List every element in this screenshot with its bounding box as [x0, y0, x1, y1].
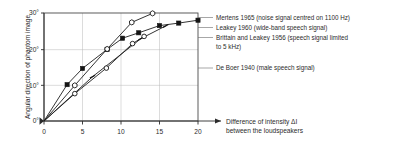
data-point-marker	[150, 11, 155, 16]
series-3	[44, 34, 146, 121]
chart-figure: 30° 20° 10° 0° 0 5 10 15 20 Angular dire…	[0, 0, 393, 154]
data-point-marker	[177, 21, 181, 25]
legend-item-brittain-leakey-cont: to 5 kHz)	[216, 43, 241, 51]
x-tick-label: 0	[42, 128, 46, 135]
x-axis	[44, 119, 221, 124]
data-point-marker	[137, 31, 141, 35]
data-point-marker	[142, 34, 147, 39]
grid-lines	[44, 13, 198, 121]
data-point-marker	[73, 91, 78, 96]
data-point-marker	[130, 20, 135, 25]
y-axis-title: Angular direction of phantom image	[24, 15, 32, 119]
legend: Mertens 1965 (noise signal centred on 11…	[216, 14, 350, 73]
series-line	[44, 36, 144, 121]
data-series-layer	[44, 11, 200, 121]
legend-item-de-boer: De Boer 1940 (male speech signal)	[216, 64, 315, 72]
series-1	[44, 11, 155, 121]
data-point-marker	[196, 18, 200, 22]
data-point-marker	[105, 46, 110, 51]
data-point-marker	[73, 83, 78, 88]
series-line	[44, 26, 166, 121]
series-line	[44, 13, 153, 121]
y-tick-label: 0°	[33, 117, 40, 124]
x-axis-title-line1: Difference of intensity ΔI	[226, 118, 298, 126]
legend-item-mertens: Mertens 1965 (noise signal centred on 11…	[216, 14, 350, 22]
x-tick-label: 5	[81, 128, 85, 135]
data-point-marker	[65, 83, 69, 87]
data-point-marker	[80, 66, 84, 70]
data-point-marker	[104, 66, 109, 71]
data-point-marker	[157, 24, 161, 28]
data-point-marker	[120, 36, 124, 40]
x-tick-label: 20	[194, 128, 202, 135]
data-point-marker	[130, 41, 135, 46]
x-axis-title-line2: between the loudspeakers	[226, 127, 304, 135]
x-tick-label: 10	[117, 128, 125, 135]
x-tick-labels: 0 5 10 15 20	[42, 128, 202, 135]
x-tick-label: 15	[156, 128, 164, 135]
legend-leader-lines	[198, 18, 213, 69]
legend-item-leakey: Leakey 1960 (wide-band speech signal)	[216, 24, 327, 32]
legend-item-brittain-leakey: Brittain and Leakey 1956 (speech signal …	[216, 34, 348, 42]
series-2	[44, 25, 168, 121]
x-tick-marks	[44, 121, 198, 125]
chart-svg: 30° 20° 10° 0° 0 5 10 15 20 Angular dire…	[0, 0, 393, 154]
